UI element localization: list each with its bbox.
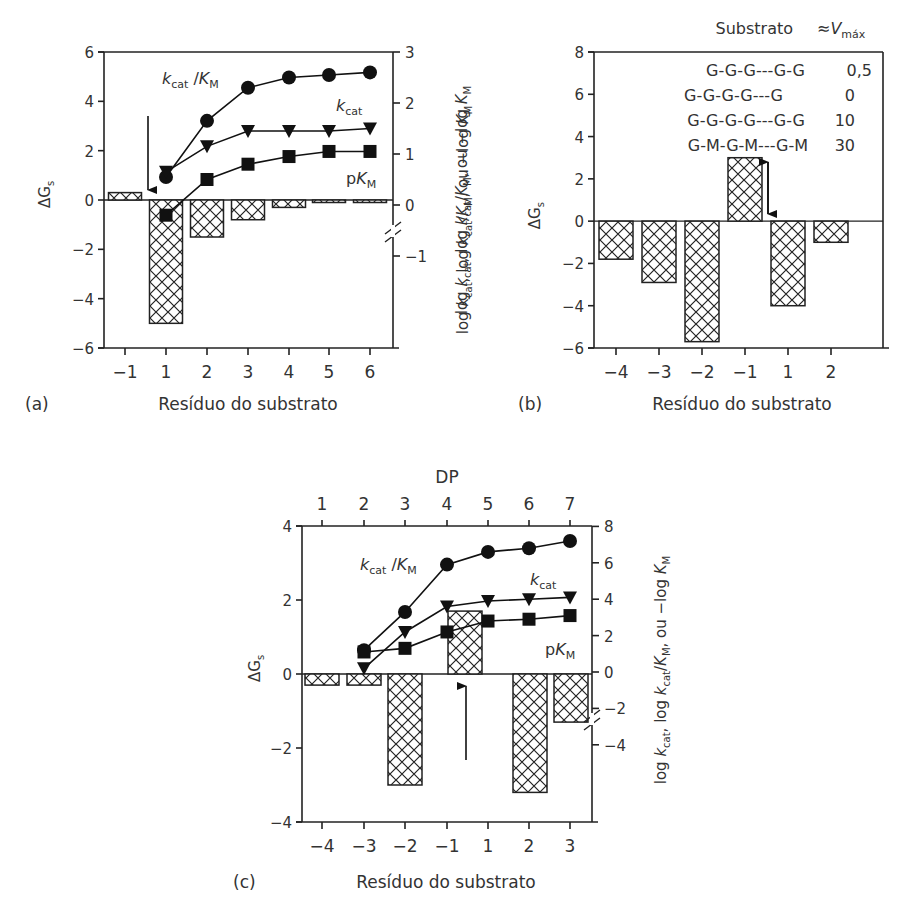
marker-square [201, 173, 214, 186]
panel-label: (a) [25, 394, 49, 414]
y2-tick-label: 2 [405, 95, 415, 113]
marker-circle [322, 68, 336, 82]
marker-square [358, 645, 371, 658]
bar-3 [554, 674, 588, 722]
y2-tick-label: 1 [405, 146, 415, 164]
marker-square [523, 613, 536, 626]
x-tick-label: 3 [243, 362, 254, 382]
x-axis-label: Resíduo do substrato [652, 394, 831, 414]
marker-square [242, 158, 255, 171]
top-tick-label: 2 [359, 494, 370, 514]
y2-tick-label: −2 [604, 700, 626, 718]
x-tick-label: −1 [732, 362, 757, 382]
y-tick-label: −2 [72, 241, 94, 259]
x-tick-label: 1 [161, 362, 172, 382]
marker-circle [522, 541, 536, 555]
x-tick-label: 1 [483, 836, 494, 856]
y-axis-label-left: ΔGs [36, 181, 56, 208]
bar--4 [305, 674, 339, 685]
y2-tick-label: 2 [604, 628, 614, 646]
bar--2 [388, 674, 422, 785]
top-tick-label: 1 [317, 494, 328, 514]
legend-substrate: G-G-G-G---G-G [687, 111, 805, 130]
x-tick-label: 6 [365, 362, 376, 382]
panel-c: −4−2024−4−3−2−1123−4−202468(c)Resíduo do… [233, 467, 672, 892]
marker-square [564, 609, 577, 622]
x-tick-label: 3 [565, 836, 576, 856]
y-tick-label: 2 [84, 143, 94, 161]
y-tick-label: 4 [84, 93, 94, 111]
top-tick-label: 5 [483, 494, 494, 514]
top-tick-label: 3 [400, 494, 411, 514]
y2-tick-label: −1 [405, 248, 427, 266]
bar--1 [448, 611, 482, 674]
panel-a: −6−4−20246−1123456−10123(a)Resíduo do su… [25, 44, 473, 414]
y2-tick-label: 0 [604, 664, 614, 682]
bar-3 [232, 200, 265, 220]
x-tick-label: −3 [351, 836, 376, 856]
bar--4 [599, 221, 633, 259]
top-tick-label: 4 [442, 494, 453, 514]
x-tick-label: −4 [309, 836, 334, 856]
marker-square [482, 615, 495, 628]
y2-tick-label: 0 [405, 197, 415, 215]
legend-vmax: 0,5 [847, 61, 872, 80]
y-tick-label: −4 [72, 291, 94, 309]
marker-square [160, 209, 173, 222]
legend-header-substrate: Substrato [715, 19, 793, 38]
panel-label: (c) [233, 872, 256, 892]
bar-6 [354, 200, 387, 203]
y-tick-label: −4 [562, 298, 584, 316]
y-tick-label: 8 [574, 44, 584, 62]
y-axis-label-right: log kcat, log kcat/KM, ou −log KM [652, 556, 672, 785]
marker-square [323, 145, 336, 158]
y2-tick-label: 8 [604, 518, 614, 536]
y-tick-label: 0 [282, 666, 292, 684]
marker-circle [440, 558, 454, 572]
y-tick-label: −2 [562, 255, 584, 273]
legend-vmax: 10 [835, 111, 855, 130]
x-tick-label: −1 [434, 836, 459, 856]
legend-header-vmax: ≈Vmáx [817, 19, 866, 41]
y-tick-label: 2 [282, 592, 292, 610]
marker-circle [481, 545, 495, 559]
x-tick-label: 1 [783, 362, 794, 382]
x-tick-label: −4 [603, 362, 628, 382]
marker-circle [241, 81, 255, 95]
y-tick-label: −6 [72, 340, 94, 358]
y-tick-label: 0 [84, 192, 94, 210]
legend-substrate: G-G-G-G---G [684, 86, 783, 105]
panel-label: (b) [518, 394, 542, 414]
y2-tick-label: −4 [604, 737, 626, 755]
bar--3 [642, 221, 676, 282]
label-kcat-km: kcat /KM [162, 69, 219, 91]
label-pkm: pKM [346, 169, 376, 191]
marker-square [399, 642, 412, 655]
y2-tick-label: 6 [604, 555, 614, 573]
bar-1 [771, 221, 805, 306]
bar--1 [109, 193, 142, 200]
marker-square [441, 625, 454, 638]
label-kcat: kcat [336, 96, 363, 118]
bar--3 [347, 674, 381, 685]
bar--1 [728, 158, 762, 221]
marker-circle [200, 114, 214, 128]
bar-2 [513, 674, 547, 792]
x-tick-label: 5 [324, 362, 335, 382]
y-axis-label-right: log kcat, log kcat/KM, ou −log KM [454, 106, 474, 335]
legend-vmax: 30 [835, 136, 855, 155]
label-kcat-km: kcat /KM [360, 555, 417, 577]
x-tick-label: 4 [284, 362, 295, 382]
marker-triangle-down [200, 140, 214, 153]
y2-tick-label: 3 [405, 44, 415, 62]
label-pkm: pKM [545, 640, 575, 662]
bar-4 [273, 200, 306, 207]
marker-circle [398, 605, 412, 619]
x-tick-label: 2 [524, 836, 535, 856]
x-axis-label: Resíduo do substrato [356, 872, 535, 892]
x-tick-label: 2 [202, 362, 213, 382]
bar-2 [191, 200, 224, 237]
legend-vmax: 0 [845, 86, 855, 105]
y-tick-label: −4 [270, 814, 292, 832]
top-axis-label: DP [435, 467, 458, 487]
